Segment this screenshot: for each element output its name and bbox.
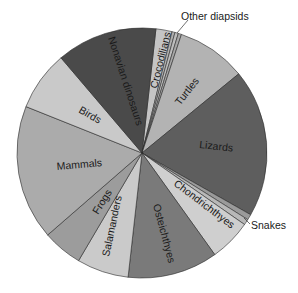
label-other-diapsids: Other diapsids	[181, 10, 249, 22]
pie-chart: Other diapsids Snakes Nonavian dinosaurs…	[0, 0, 298, 293]
label-snakes: Snakes	[251, 219, 286, 231]
